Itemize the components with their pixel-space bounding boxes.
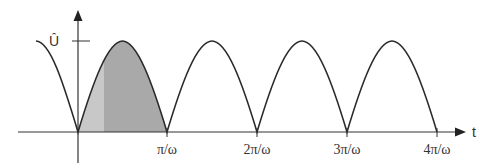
x-axis-label: t (472, 124, 476, 140)
shaded-area (78, 30, 168, 133)
x-tick-label-2: 2π/ω (243, 142, 270, 157)
y-axis-arrow-icon (74, 10, 83, 21)
rectified-sine-chart: t Û π/ω 2π/ω 3π/ω 4π/ω (0, 0, 497, 168)
amplitude-label: Û (49, 33, 59, 49)
x-axis-arrow-icon (455, 128, 466, 137)
x-tick-label-4: 4π/ω (423, 142, 450, 157)
x-tick-label-1: π/ω (157, 142, 177, 157)
x-tick-label-3: 3π/ω (333, 142, 360, 157)
